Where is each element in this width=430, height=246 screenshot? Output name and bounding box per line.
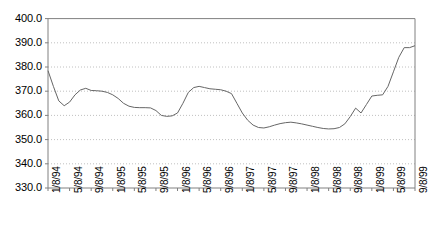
- x-axis-tick-label: 9/8/98: [354, 166, 364, 193]
- y-axis-tick-label: 350.0: [0, 134, 42, 145]
- x-axis-tick-label: 5/8/98: [333, 166, 343, 193]
- x-axis-tick-label: 9/8/96: [225, 166, 235, 193]
- x-axis-tick-label: 9/8/99: [419, 166, 429, 193]
- x-axis-tick-label: 5/8/94: [74, 166, 84, 193]
- x-axis-tick-label: 9/8/94: [95, 166, 105, 193]
- x-axis-tick-label: 1/8/97: [246, 166, 256, 193]
- x-axis-tick-label: 5/8/97: [268, 166, 278, 193]
- x-axis-tick-label: 5/8/99: [397, 166, 407, 193]
- x-axis-tick-label: 9/8/95: [160, 166, 170, 193]
- y-axis-tick-label: 400.0: [0, 13, 42, 24]
- grid-lines: [48, 19, 415, 188]
- y-axis-tick-label: 330.0: [0, 182, 42, 193]
- chart-plot-area: [0, 0, 430, 246]
- y-axis-tick-label: 360.0: [0, 109, 42, 120]
- x-axis-tick-label: 1/8/98: [311, 166, 321, 193]
- x-axis-tick-label: 1/8/96: [182, 166, 192, 193]
- x-axis-tick-label: 1/8/99: [376, 166, 386, 193]
- axis-lines: [48, 19, 415, 188]
- y-axis-tick-label: 340.0: [0, 158, 42, 169]
- x-axis-tick-label: 9/8/97: [289, 166, 299, 193]
- x-axis-tick-label: 5/8/95: [138, 166, 148, 193]
- y-axis-tick-label: 370.0: [0, 85, 42, 96]
- x-axis-tick-label: 5/8/96: [203, 166, 213, 193]
- x-axis-tick-label: 1/8/95: [117, 166, 127, 193]
- data-series-line: [48, 46, 415, 129]
- y-axis-tick-label: 390.0: [0, 37, 42, 48]
- x-axis-tick-label: 1/8/94: [52, 166, 62, 193]
- line-chart: 400.0390.0380.0370.0360.0350.0340.0330.0…: [0, 0, 430, 246]
- y-axis-tick-label: 380.0: [0, 61, 42, 72]
